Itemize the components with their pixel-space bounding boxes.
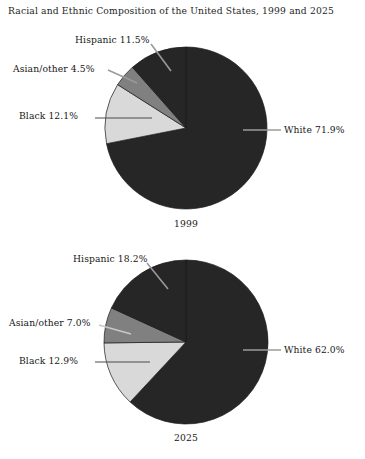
slice-label-white-2025: White 62.0%	[284, 344, 345, 355]
slice-label-asian-2025: Asian/other 7.0%	[9, 317, 91, 328]
slice-label-hispanic-1999: Hispanic 11.5%	[75, 34, 150, 45]
slice-label-white-1999: White 71.9%	[284, 124, 345, 135]
slice-label-hispanic-2025: Hispanic 18.2%	[73, 253, 148, 264]
year-label-2025: 2025	[152, 432, 220, 443]
slice-label-black-1999: Black 12.1%	[19, 110, 78, 121]
year-label-1999: 1999	[152, 218, 220, 229]
pie-chart-1999	[105, 47, 267, 209]
slice-label-asian-1999: Asian/other 4.5%	[13, 63, 95, 74]
pie-chart-figure: Racial and Ethnic Composition of the Uni…	[0, 0, 365, 459]
pie-chart-2025	[104, 260, 268, 424]
slice-label-black-2025: Black 12.9%	[19, 355, 78, 366]
